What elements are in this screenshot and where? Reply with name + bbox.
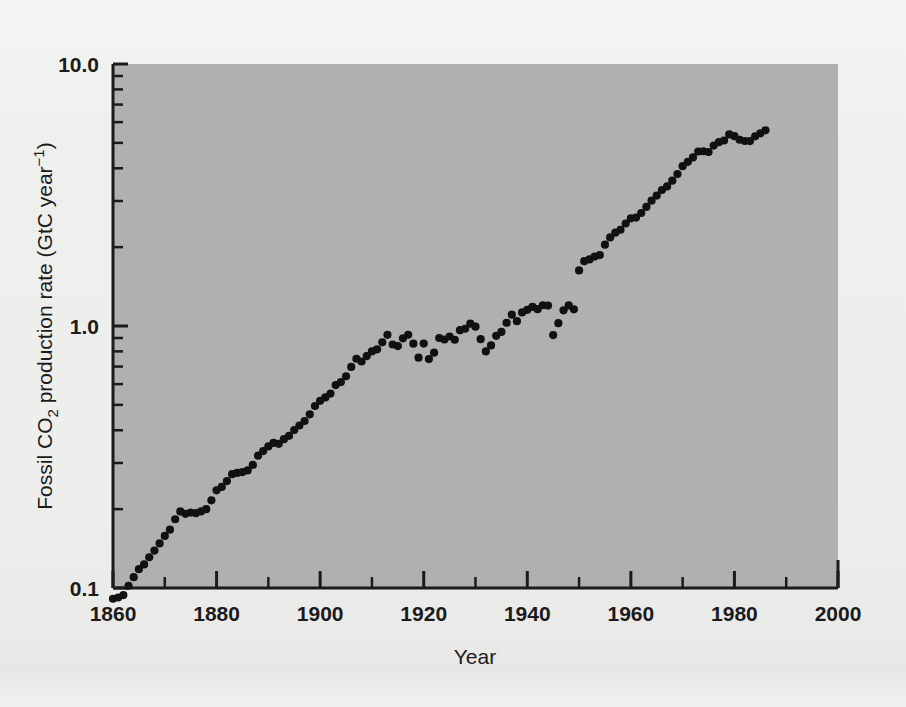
data-point — [570, 305, 578, 313]
data-point — [161, 532, 169, 540]
x-axis-tick-label: 1900 — [297, 602, 344, 625]
data-point — [601, 241, 609, 249]
y-axis-title: Fossil CO2 production rate (GtC year−1) — [30, 142, 61, 509]
data-point — [761, 126, 769, 134]
data-point — [404, 331, 412, 339]
data-point — [207, 496, 215, 504]
y-axis-title-lead: Fossil CO — [33, 418, 56, 510]
data-point — [326, 390, 334, 398]
data-point — [451, 336, 459, 344]
x-axis-tick-label: 1880 — [193, 602, 240, 625]
data-point — [130, 573, 138, 581]
x-axis-tick-labels: 18601880190019201940196019802000 — [90, 602, 862, 625]
y-axis-tick-labels: 0.11.010.0 — [58, 53, 99, 600]
data-point — [430, 349, 438, 357]
data-point — [373, 345, 381, 353]
data-point — [554, 319, 562, 327]
data-point — [301, 417, 309, 425]
data-point — [508, 311, 516, 319]
y-axis-tick-label: 1.0 — [70, 315, 99, 338]
data-point — [347, 363, 355, 371]
data-point — [487, 341, 495, 349]
svg-text:Fossil CO2 production rate (Gt: Fossil CO2 production rate (GtC year−1) — [30, 142, 61, 509]
data-point — [596, 251, 604, 259]
data-point — [249, 461, 257, 469]
figure-container: 0.11.010.0 18601880190019201940196019802… — [0, 0, 906, 707]
scatter-chart: 0.11.010.0 18601880190019201940196019802… — [0, 0, 906, 707]
data-point — [616, 226, 624, 234]
data-point — [306, 410, 314, 418]
data-point — [544, 301, 552, 309]
data-point — [166, 526, 174, 534]
data-point — [378, 338, 386, 346]
data-point — [223, 477, 231, 485]
data-point — [171, 515, 179, 523]
y-axis-tick-label: 0.1 — [70, 577, 100, 600]
data-point — [145, 553, 153, 561]
data-point — [156, 539, 164, 547]
x-axis-tick-label: 1860 — [90, 602, 137, 625]
x-axis-title: Year — [454, 645, 496, 668]
y-axis-title-subscript: 2 — [44, 409, 61, 417]
data-point — [409, 340, 417, 348]
y-axis-title-superscript: −1 — [30, 149, 47, 166]
data-point — [471, 323, 479, 331]
data-point — [575, 266, 583, 274]
data-point — [202, 505, 210, 513]
y-axis-tick-label: 10.0 — [58, 53, 99, 76]
data-point — [425, 355, 433, 363]
x-axis-tick-label: 1940 — [504, 602, 551, 625]
x-axis-tick-label: 1980 — [711, 602, 758, 625]
data-point — [150, 546, 158, 554]
data-point — [420, 339, 428, 347]
x-axis-tick-label: 1960 — [607, 602, 654, 625]
x-axis-tick-label: 1920 — [400, 602, 447, 625]
data-point — [704, 148, 712, 156]
data-point — [342, 372, 350, 380]
data-point — [477, 335, 485, 343]
y-axis-title-mid: production rate (GtC year — [33, 166, 56, 409]
data-point — [394, 342, 402, 350]
data-point — [124, 582, 132, 590]
data-point — [549, 331, 557, 339]
data-point — [502, 319, 510, 327]
data-point — [668, 177, 676, 185]
y-axis-title-tail: ) — [33, 142, 56, 149]
data-point — [513, 317, 521, 325]
data-point — [140, 560, 148, 568]
data-point — [497, 328, 505, 336]
data-point — [383, 331, 391, 339]
data-point — [414, 354, 422, 362]
data-point — [119, 591, 127, 599]
x-axis-tick-label: 2000 — [815, 602, 862, 625]
data-point — [673, 170, 681, 178]
